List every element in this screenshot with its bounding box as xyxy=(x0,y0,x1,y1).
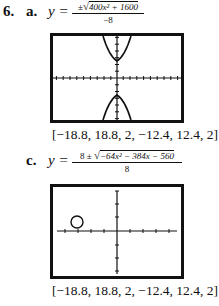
part-a-y-equals: y = xyxy=(48,3,69,20)
radicand: −64x² − 384x − 560 xyxy=(100,150,174,161)
part-c-label: c. xyxy=(26,152,36,169)
part-c-numerator: 8 ± √−64x² − 384x − 560 xyxy=(72,149,182,163)
window-caption-c: [−18.8, 18.8, 2, −12.4, 12.4, 2] xyxy=(52,283,218,299)
numerator-prefix: 8 ± xyxy=(80,151,92,161)
part-a-numerator: ±√400x² + 1600 xyxy=(72,0,144,14)
radicand: 400x² + 1600 xyxy=(89,1,138,12)
part-a-denominator: −8 xyxy=(72,14,144,25)
part-c-fraction: 8 ± √−64x² − 384x − 560 8 xyxy=(72,149,182,174)
part-a-label: a. xyxy=(26,3,37,20)
part-c-y-equals: y = xyxy=(48,152,69,169)
circle-graph xyxy=(53,187,181,276)
graph-screen-a xyxy=(50,33,184,123)
part-a-fraction: ±√400x² + 1600 −8 xyxy=(72,0,144,25)
part-c-denominator: 8 xyxy=(72,163,182,174)
problem-number: 6. xyxy=(3,3,14,20)
hyperbola-graph xyxy=(53,36,181,120)
window-caption-a: [−18.8, 18.8, 2, −12.4, 12.4, 2] xyxy=(52,127,218,143)
graph-screen-c xyxy=(50,184,184,279)
